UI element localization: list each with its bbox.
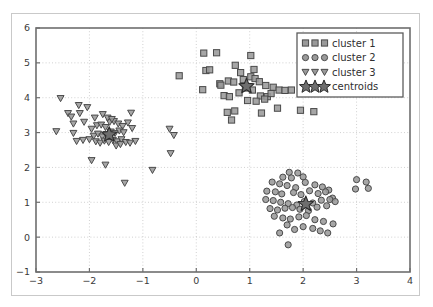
- data-point: [282, 87, 288, 93]
- x-tick-label: 0: [193, 275, 199, 286]
- data-point: [352, 186, 358, 192]
- data-point: [200, 87, 206, 93]
- legend-marker-circle: [302, 55, 308, 61]
- data-point: [232, 62, 238, 68]
- x-tick-label: 3: [354, 275, 360, 286]
- data-point: [270, 197, 276, 203]
- y-tick-label: 0: [24, 232, 30, 243]
- data-point: [267, 205, 273, 211]
- data-point: [365, 185, 371, 191]
- legend[interactable]: cluster 1cluster 2cluster 3centroids: [297, 33, 403, 97]
- data-point: [68, 114, 75, 120]
- data-point: [363, 179, 369, 185]
- data-point: [280, 174, 286, 180]
- data-point: [330, 221, 336, 227]
- data-point: [236, 90, 242, 96]
- data-point: [271, 213, 277, 219]
- legend-label: cluster 1: [332, 38, 376, 49]
- x-tick-label: −1: [136, 275, 150, 286]
- data-point: [76, 111, 83, 117]
- data-point: [302, 179, 308, 185]
- y-tick-label: 5: [24, 57, 30, 68]
- data-point: [290, 189, 296, 195]
- data-point: [353, 177, 359, 183]
- data-point: [325, 230, 331, 236]
- data-point: [300, 224, 306, 230]
- legend-marker-square: [312, 40, 318, 46]
- data-point: [226, 94, 232, 100]
- data-point: [277, 181, 283, 187]
- x-tick-label: −2: [82, 275, 96, 286]
- data-point: [317, 228, 323, 234]
- data-point: [315, 190, 321, 196]
- y-tick-label: 2: [24, 162, 30, 173]
- x-tick-label: 4: [407, 275, 413, 286]
- data-point: [298, 192, 304, 198]
- data-point: [311, 109, 317, 115]
- data-point: [149, 167, 156, 173]
- data-point: [88, 126, 95, 132]
- data-point: [262, 96, 268, 102]
- data-point: [269, 179, 275, 185]
- data-point: [201, 50, 207, 56]
- data-point: [310, 225, 316, 231]
- data-point: [75, 103, 82, 109]
- data-point: [291, 226, 297, 232]
- data-point: [288, 87, 294, 93]
- data-point: [277, 230, 283, 236]
- x-tick-label: −3: [29, 275, 43, 286]
- data-point: [207, 67, 213, 73]
- legend-label: centroids: [332, 81, 378, 92]
- data-point: [102, 162, 109, 168]
- data-point: [73, 138, 80, 144]
- series-cluster-3: [53, 96, 177, 187]
- data-point: [91, 115, 98, 121]
- data-point: [320, 218, 326, 224]
- data-point: [228, 117, 234, 123]
- data-point: [314, 204, 320, 210]
- data-point: [253, 98, 259, 104]
- data-point: [263, 196, 269, 202]
- data-point: [274, 105, 280, 111]
- data-point: [263, 82, 269, 88]
- data-point: [170, 133, 177, 139]
- data-point: [278, 199, 284, 205]
- legend-marker-square: [321, 40, 327, 46]
- data-point: [272, 189, 278, 195]
- data-point: [287, 216, 293, 222]
- data-point: [251, 66, 257, 72]
- y-tick-label: 4: [24, 92, 30, 103]
- data-point: [274, 207, 280, 213]
- x-tick-label: 1: [247, 275, 253, 286]
- data-point: [86, 137, 93, 143]
- data-point: [284, 222, 290, 228]
- data-point: [176, 73, 182, 79]
- data-point: [80, 137, 87, 143]
- legend-marker-circle: [321, 55, 327, 61]
- data-point: [322, 189, 328, 195]
- data-point: [248, 52, 254, 58]
- legend-label: cluster 2: [332, 52, 376, 63]
- data-point: [121, 180, 128, 186]
- data-point: [224, 109, 230, 115]
- data-point: [244, 97, 250, 103]
- data-point: [81, 119, 88, 125]
- data-point: [70, 130, 77, 136]
- data-point: [218, 82, 224, 88]
- data-point: [264, 188, 270, 194]
- data-point: [53, 129, 60, 135]
- data-point: [213, 50, 219, 56]
- data-point: [282, 205, 288, 211]
- data-point: [167, 151, 174, 157]
- legend-marker-square: [302, 40, 308, 46]
- data-point: [276, 87, 282, 93]
- legend-marker-circle: [312, 55, 318, 61]
- figure: −3−2−101234−10123456 cluster 1cluster 2c…: [0, 0, 433, 307]
- data-point: [280, 215, 286, 221]
- scatter-plot: −3−2−101234−10123456 cluster 1cluster 2c…: [0, 0, 433, 307]
- data-point: [258, 110, 264, 116]
- data-point: [312, 217, 318, 223]
- data-point: [166, 126, 173, 132]
- data-point: [318, 197, 324, 203]
- data-point: [70, 121, 77, 127]
